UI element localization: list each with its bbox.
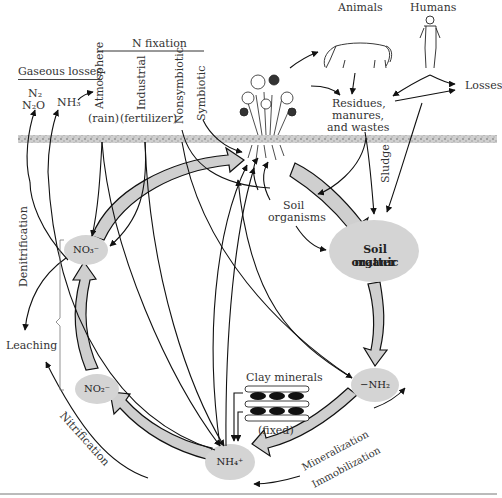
fixation-industrial-label: Industrial [135,56,148,110]
plant-icon [240,75,296,160]
gaseous-losses-label: Gaseous losses [18,66,102,80]
leaching-label: Leaching [6,340,57,352]
residues-label-3: and wastes [327,122,389,134]
clay-minerals-label: Clay minerals [246,372,323,384]
fixation-industrial-sub: (fertilizer) [120,113,177,125]
pool-nh2-label: −NH₂ [355,379,395,390]
clay-minerals-icon [245,386,309,421]
horse-icon [324,43,391,68]
fixation-symbiotic-label: Symbiotic [195,66,208,121]
humans-label: Humans [410,2,456,14]
pool-no2-label: NO₂⁻ [77,383,117,394]
fixation-nonsymbiotic-label: Nonsymbiotic [173,47,186,124]
pool-nh4-label: NH₄⁺ [210,456,250,467]
clay-fixed-label: (fixed) [258,425,294,437]
fixation-atmosphere-sub: (rain) [88,113,119,125]
sludge-label: Sludge [379,144,392,183]
main-cycle-flows [73,148,387,460]
human-icon [420,16,440,68]
soil-organic-matter-label-2: matter [340,256,410,269]
fixation-atmosphere-label: Atmosphere [93,42,106,109]
leaching-bracket [56,240,64,390]
animals-label: Animals [338,2,383,14]
denitrification-label: Denitrification [17,206,30,287]
soil-surface-band [18,135,497,143]
gas-nh3: NH₃ [57,97,81,109]
gas-n2o: N₂O [22,100,45,112]
pool-no3-label: NO₃⁻ [66,244,106,255]
losses-label: Losses [465,80,502,92]
soil-organisms-label-2: organisms [268,212,326,224]
